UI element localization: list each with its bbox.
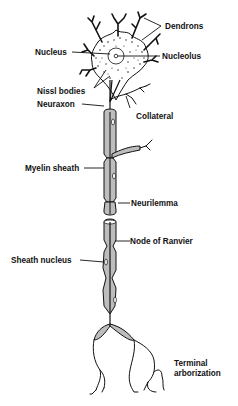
label-myelin-sheath: Myelin sheath xyxy=(25,164,79,173)
label-nucleolus: Nucleolus xyxy=(162,52,202,61)
label-node-of-ranvier: Node of Ranvier xyxy=(130,237,194,246)
neuron-diagram: Dendrons Nucleus Nucleolus Nissl bodies … xyxy=(0,0,238,406)
nucleolus-shape xyxy=(114,54,118,58)
label-dendrons: Dendrons xyxy=(165,22,204,31)
label-sheath-nucleus: Sheath nucleus xyxy=(11,256,72,265)
label-arborization: arborization xyxy=(174,369,221,378)
label-neuraxon: Neuraxon xyxy=(37,100,75,109)
label-terminal: Terminal xyxy=(174,359,208,368)
terminal-arborization xyxy=(90,324,164,394)
cell-body xyxy=(91,30,148,100)
collateral-branch xyxy=(110,84,150,104)
label-nissl-bodies: Nissl bodies xyxy=(37,87,86,96)
label-nucleus: Nucleus xyxy=(35,48,67,57)
label-neurilemma: Neurilemma xyxy=(131,199,178,208)
label-collateral: Collateral xyxy=(136,112,173,121)
myelin-segments-lower xyxy=(103,219,116,324)
